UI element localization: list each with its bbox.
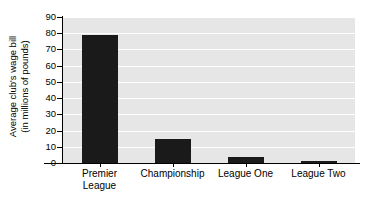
- x-axis-tick-mark: [173, 163, 174, 167]
- x-axis-tick-labels: PremierLeagueChampionshipLeague OneLeagu…: [63, 168, 355, 202]
- x-axis-tick-label-line: Championship: [141, 168, 205, 180]
- y-axis-tick-label: 50: [34, 77, 56, 87]
- y-axis-tick-label: 20: [34, 126, 56, 136]
- bar-chart: Average club's wage bill (in millions of…: [0, 0, 367, 210]
- x-axis-tick-label-line: League Two: [291, 168, 345, 180]
- x-axis-tick-mark: [100, 163, 101, 167]
- x-axis-tick-label: League Two: [291, 168, 345, 180]
- x-axis-tick-marks: [63, 163, 355, 167]
- y-axis-tick-label: 10: [34, 142, 56, 152]
- bar: [82, 35, 118, 163]
- y-axis-tick-labels: 0102030405060708090: [34, 11, 56, 167]
- x-axis-tick-mark: [319, 163, 320, 167]
- bars-layer: [63, 17, 355, 163]
- x-axis-tick-label-line: League One: [218, 168, 273, 180]
- y-axis-tick-label: 30: [34, 109, 56, 119]
- x-axis-tick-label-line: League: [82, 180, 117, 192]
- y-axis-tick-label: 60: [34, 61, 56, 71]
- y-axis-title-line-2: (in millions of pounds): [19, 35, 31, 136]
- y-axis-tick-label: 80: [34, 28, 56, 38]
- y-axis-title-line-1: Average club's wage bill: [8, 35, 20, 136]
- x-axis-tick-label: PremierLeague: [82, 168, 117, 192]
- y-axis-tick-label: 40: [34, 93, 56, 103]
- x-axis-tick-label: Championship: [141, 168, 205, 180]
- y-axis-title: Average club's wage bill (in millions of…: [0, 0, 38, 172]
- bar: [155, 139, 191, 163]
- y-axis-tick-label: 90: [34, 12, 56, 22]
- x-axis-tick-label: League One: [218, 168, 273, 180]
- y-axis-tick-label: 70: [34, 44, 56, 54]
- x-axis-tick-mark: [246, 163, 247, 167]
- x-axis-tick-label-line: Premier: [82, 168, 117, 180]
